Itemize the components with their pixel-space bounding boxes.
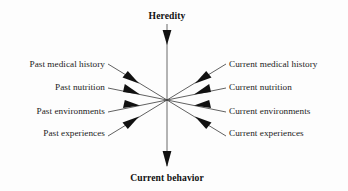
arrowhead-current-environments — [194, 100, 211, 108]
arrowhead-past-environments — [123, 100, 140, 108]
label-current-environments: Current environments — [229, 107, 310, 116]
label-past-nutrition: Past nutrition — [55, 83, 105, 92]
edge-past-environments — [108, 100, 167, 112]
arrowhead-past-experiences — [123, 117, 140, 130]
label-current-experiences: Current experiences — [229, 129, 304, 138]
label-past-environments: Past environments — [37, 107, 105, 116]
arrowhead-current-experiences — [195, 117, 212, 130]
arrowhead-past-medical-history — [123, 71, 140, 84]
label-current-nutrition: Current nutrition — [229, 83, 292, 92]
heredity-label: Heredity — [149, 10, 186, 21]
current-behavior-label: Current behavior — [130, 172, 204, 183]
current-behavior-arrowhead — [163, 151, 172, 167]
diagram-canvas: Heredity Current behavior Past medical h… — [0, 0, 348, 191]
arrowhead-current-nutrition — [194, 84, 211, 95]
diagram-svg — [0, 0, 348, 191]
edge-current-environments — [167, 100, 226, 112]
label-current-medical-history: Current medical history — [229, 60, 317, 69]
heredity-arrowhead — [163, 30, 172, 45]
arrowhead-past-nutrition — [123, 84, 140, 95]
arrowhead-current-medical-history — [195, 71, 212, 84]
label-past-experiences: Past experiences — [43, 129, 105, 138]
label-past-medical-history: Past medical history — [29, 60, 105, 69]
